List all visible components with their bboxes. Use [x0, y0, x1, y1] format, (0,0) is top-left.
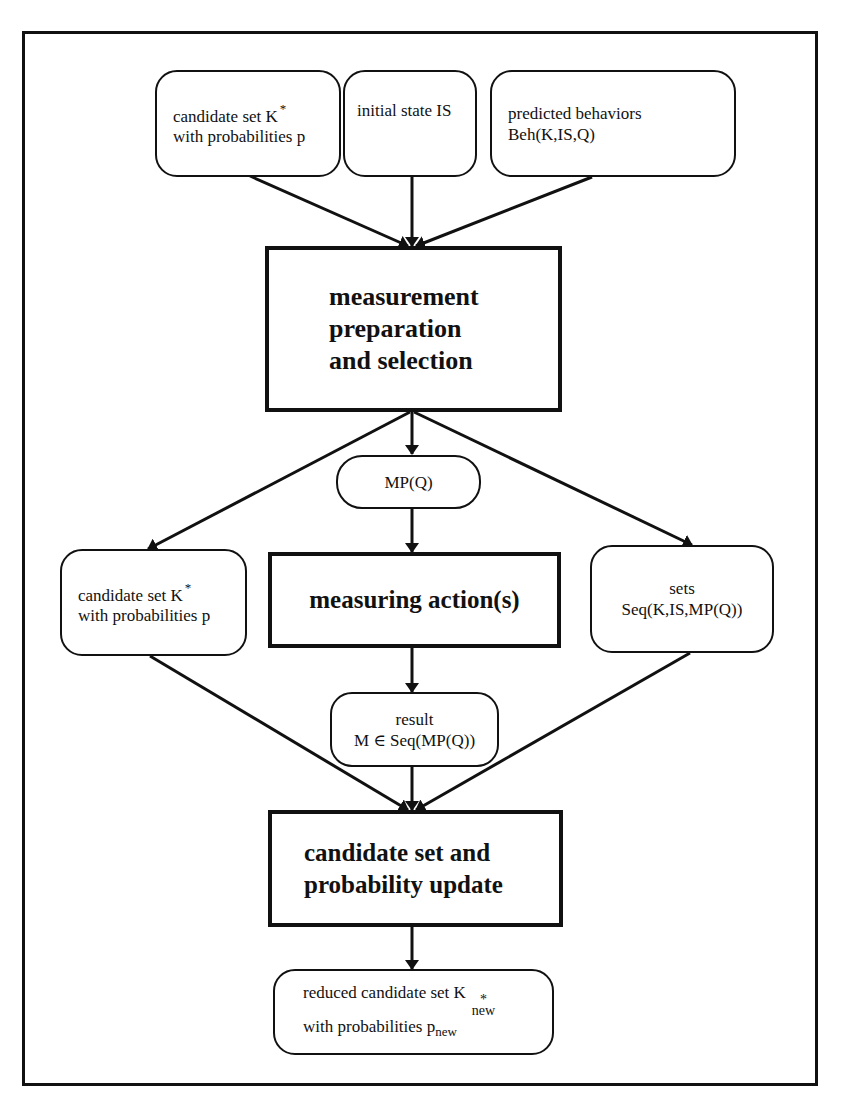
measuring-action-label: measuring action(s)	[309, 586, 519, 614]
output-reduced-candidate-set: reduced candidate set K*new with probabi…	[273, 969, 554, 1055]
reduced-candidate-label: reduced candidate set K	[303, 983, 466, 1002]
result-expression: M ∈ Seq(MP(Q))	[354, 730, 475, 751]
new-subscript: new	[435, 1024, 457, 1039]
probabilities-new-label: with probabilities p	[303, 1017, 435, 1036]
measurement-preparation-process: measurement preparation and selection	[265, 246, 562, 412]
star-superscript: *	[185, 580, 192, 595]
new-subscript: new	[472, 1005, 495, 1016]
update-line2: probability update	[304, 869, 503, 901]
input-candidate-set: candidate set K* with probabilities p	[155, 70, 341, 177]
input-predicted-behaviors: predicted behaviors Beh(K,IS,Q)	[490, 70, 736, 177]
input-initial-state: initial state IS	[343, 70, 477, 177]
mpq-node: MP(Q)	[336, 455, 481, 509]
seq-function-label: Seq(K,IS,MP(Q))	[622, 599, 743, 620]
star-superscript: *	[280, 101, 287, 116]
update-line1: candidate set and	[304, 837, 490, 869]
candidate-set-mid-label: candidate set K	[78, 585, 183, 604]
measurement-prep-line1: measurement	[329, 281, 479, 313]
measurement-prep-line2: preparation	[329, 313, 461, 345]
candidate-set-label: candidate set K	[173, 106, 278, 125]
mpq-label: MP(Q)	[384, 472, 432, 493]
measuring-action-process: measuring action(s)	[268, 552, 561, 648]
initial-state-label: initial state IS	[357, 100, 451, 121]
probabilities-mid-label: with probabilities p	[78, 605, 210, 626]
predicted-behaviors-label: predicted behaviors	[508, 103, 642, 124]
update-process: candidate set and probability update	[268, 810, 563, 927]
beh-function-label: Beh(K,IS,Q)	[508, 124, 595, 145]
sets-label: sets	[669, 578, 695, 599]
probabilities-label: with probabilities p	[173, 126, 305, 147]
result-label: result	[396, 709, 434, 730]
sets-node: sets Seq(K,IS,MP(Q))	[590, 545, 774, 653]
measurement-prep-line3: and selection	[329, 345, 473, 377]
result-node: result M ∈ Seq(MP(Q))	[330, 692, 499, 767]
candidate-set-mid: candidate set K* with probabilities p	[60, 549, 247, 656]
